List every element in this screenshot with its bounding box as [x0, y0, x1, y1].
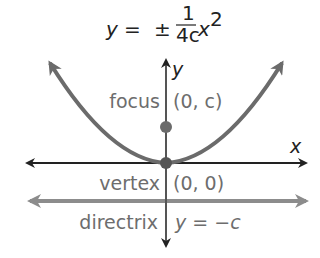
- directrix-equation: y = −c: [174, 211, 241, 233]
- equation-equals: =: [124, 17, 141, 41]
- parabola-right-branch: [166, 63, 282, 163]
- parabola-diagram: y = ± 1 4c x 2 y x focus (0, c) vertex (…: [0, 0, 320, 258]
- equation-numerator: 1: [182, 1, 195, 25]
- vertex-label: vertex: [99, 172, 160, 194]
- parabola-left-branch: [50, 63, 166, 163]
- equation-denominator: 4c: [176, 23, 200, 47]
- directrix-label: directrix: [79, 211, 158, 233]
- equation-lhs: y: [105, 17, 119, 41]
- focus-coordinate: (0, c): [173, 90, 222, 112]
- vertex-coordinate: (0, 0): [173, 172, 224, 194]
- equation: y = ± 1 4c x 2: [105, 1, 223, 47]
- x-axis-label: x: [289, 135, 302, 157]
- equation-var: x: [197, 17, 210, 41]
- y-axis-label: y: [171, 58, 184, 80]
- focus-point: [160, 121, 172, 133]
- focus-label: focus: [109, 90, 160, 112]
- equation-exponent: 2: [210, 7, 223, 31]
- vertex-point: [160, 157, 172, 169]
- equation-plus-minus: ±: [154, 17, 171, 41]
